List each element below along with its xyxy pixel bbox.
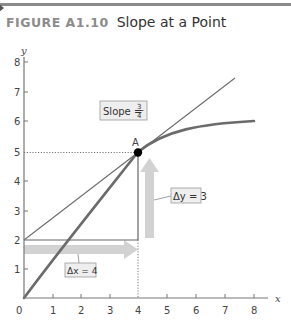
svg-text:7: 7 — [222, 305, 228, 316]
svg-text:2: 2 — [14, 235, 20, 246]
svg-text:3: 3 — [14, 206, 20, 217]
svg-text:6: 6 — [193, 305, 199, 316]
svg-text:2: 2 — [78, 305, 84, 316]
y-axis-label: y — [20, 45, 27, 56]
delta-x-arrow — [24, 240, 138, 259]
delta-y-annotation: Δy = 3 — [154, 188, 207, 203]
point-a — [134, 148, 142, 156]
svg-text:0: 0 — [16, 305, 22, 316]
svg-text:1: 1 — [50, 305, 56, 316]
delta-x-label: Δx = 4 — [67, 266, 98, 276]
curve — [24, 121, 254, 298]
svg-text:6: 6 — [14, 116, 20, 127]
x-tick-labels: 0 1 2 3 4 5 6 7 8 — [16, 305, 257, 316]
slope-annotation: Slope = 3 4 — [100, 101, 147, 120]
y-tick-labels: 1 2 3 4 5 6 7 8 — [14, 57, 20, 275]
delta-y-label: Δy = 3 — [173, 191, 207, 202]
svg-text:4: 4 — [14, 176, 20, 187]
svg-text:4: 4 — [135, 305, 141, 316]
svg-text:8: 8 — [14, 57, 20, 68]
slope-numerator: 3 — [137, 103, 141, 111]
chart: 0 1 2 3 4 5 6 7 8 1 2 3 4 5 6 7 8 y x A … — [0, 0, 291, 321]
svg-text:8: 8 — [251, 305, 257, 316]
delta-y-arrow — [140, 158, 159, 238]
svg-text:1: 1 — [14, 264, 20, 275]
svg-text:5: 5 — [14, 147, 20, 158]
slope-denominator: 4 — [137, 112, 142, 120]
point-a-label: A — [132, 137, 139, 148]
svg-text:5: 5 — [164, 305, 170, 316]
delta-x-annotation: Δx = 4 — [65, 254, 98, 277]
x-axis-label: x — [275, 293, 281, 304]
svg-text:7: 7 — [14, 87, 20, 98]
svg-text:3: 3 — [107, 305, 113, 316]
